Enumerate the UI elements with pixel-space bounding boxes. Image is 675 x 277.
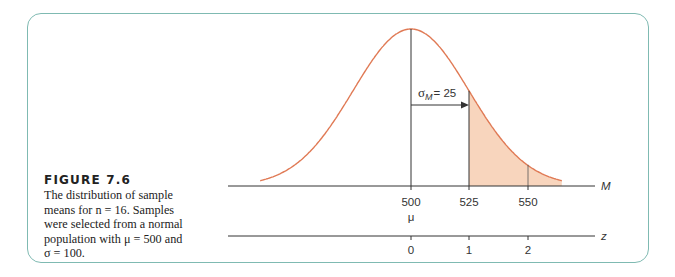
m-tick-label: 500 [401, 196, 420, 208]
mu-label: μ [408, 211, 415, 223]
shaded-tail-region [469, 91, 562, 186]
m-tick-label: 550 [518, 196, 537, 208]
z-tick-label: 1 [466, 244, 472, 256]
m-tick-label: 525 [459, 196, 478, 208]
z-tick-label: 2 [525, 244, 531, 256]
z-axis-label: z [600, 230, 607, 242]
normal-distribution-chart: σM= 25 M 500 525 550 μ z 0 1 2 [0, 0, 675, 277]
arrowhead-icon [461, 102, 469, 109]
sigma-label: σM= 25 [418, 85, 456, 102]
m-axis-label: M [601, 180, 611, 192]
z-tick-label: 0 [408, 244, 414, 256]
